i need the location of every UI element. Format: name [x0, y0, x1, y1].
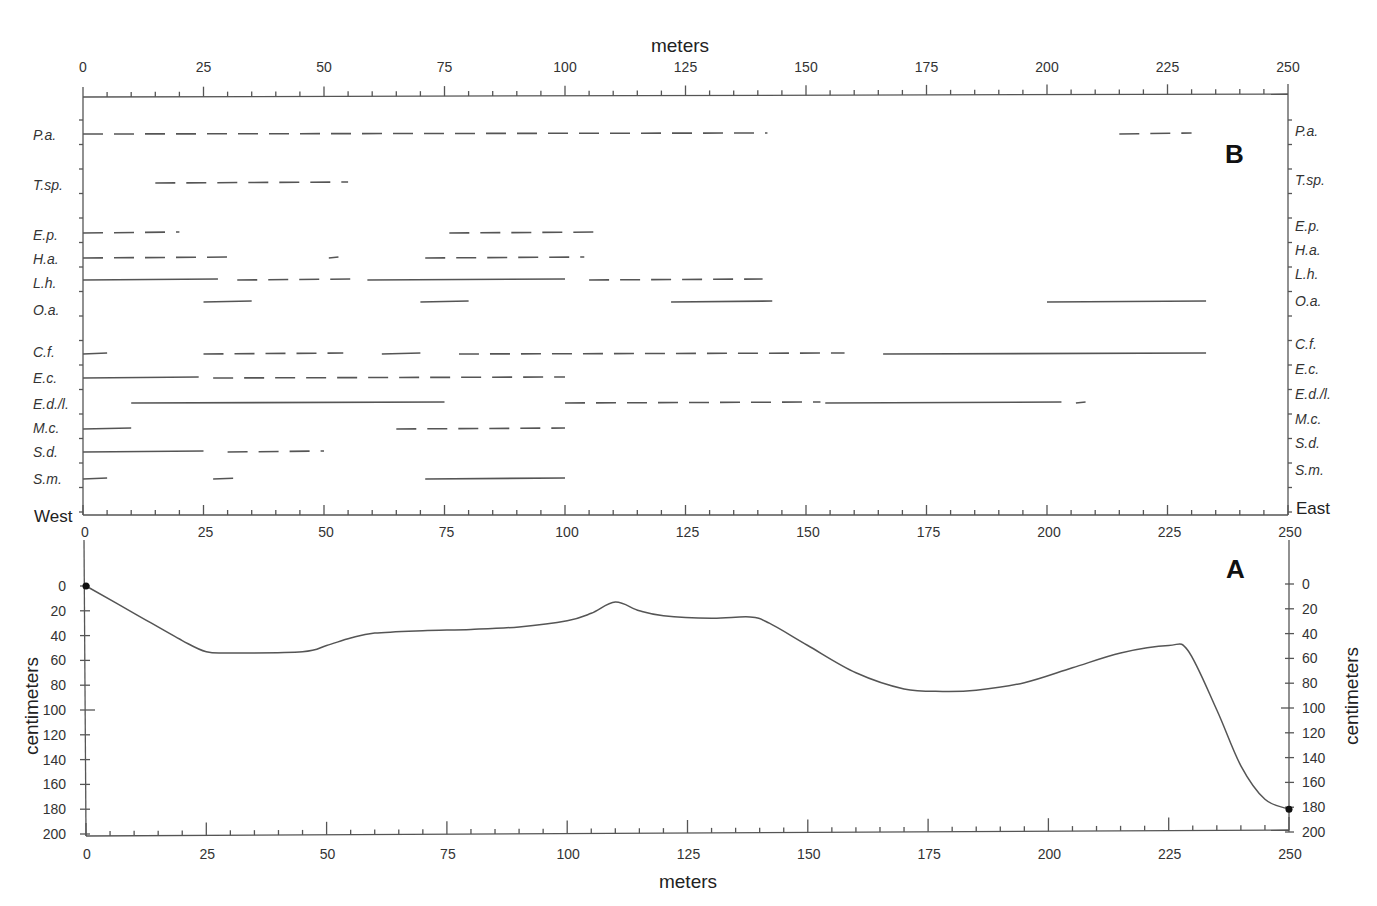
species-label-right: E.p.: [1295, 218, 1320, 234]
species-range-segment: [382, 353, 421, 354]
a-x-tick-label: 125: [677, 846, 701, 862]
species-label-right: T.sp.: [1295, 172, 1325, 188]
species-label-left: S.d.: [33, 444, 58, 460]
chart-figure: 0025255050757510010012512515015017517520…: [0, 0, 1377, 906]
east-label: East: [1296, 499, 1330, 518]
a-x-tick-label: 150: [797, 846, 821, 862]
top-x-tick-label: 200: [1035, 59, 1059, 75]
species-range-segment: [83, 232, 179, 233]
species-range-segment: [396, 428, 565, 429]
panel-b-label: B: [1225, 139, 1244, 169]
species-range-segment: [83, 428, 131, 429]
b-bottom-x-tick-label: 75: [439, 524, 455, 540]
species-range-segment: [671, 301, 772, 302]
right-y-tick-label: 120: [1302, 725, 1326, 741]
right-y-tick-label: 200: [1302, 824, 1326, 840]
species-label-left: S.m.: [33, 471, 62, 487]
species-range-segment: [367, 279, 565, 280]
species-row: C.f.C.f.: [33, 336, 1317, 360]
species-row: H.a.H.a.: [33, 242, 1321, 267]
left-y-tick-label: 0: [58, 578, 66, 594]
left-y-tick-label: 40: [50, 628, 66, 644]
species-range-segment: [83, 377, 199, 378]
panel-a-label: A: [1226, 554, 1245, 584]
top-x-tick-label: 125: [674, 59, 698, 75]
species-range-segment: [131, 402, 444, 403]
species-row: M.c.M.c.: [33, 411, 1321, 436]
left-y-axis-title: centimeters: [21, 657, 42, 755]
species-range-segment: [83, 257, 237, 258]
west-label: West: [34, 507, 73, 526]
right-y-tick-label: 0: [1302, 576, 1310, 592]
species-range-segment: [883, 353, 1206, 354]
a-x-tick-label: 25: [200, 846, 216, 862]
species-range-segment: [83, 133, 767, 134]
b-bottom-x-tick-label: 200: [1037, 524, 1061, 540]
left-y-tick-label: 100: [43, 702, 67, 718]
left-y-tick-label: 160: [43, 776, 67, 792]
a-x-tick-label: 50: [320, 846, 336, 862]
species-range-segment: [213, 478, 242, 479]
right-y-tick-label: 160: [1302, 774, 1326, 790]
species-label-left: E.p.: [33, 227, 58, 243]
species-label-right: S.m.: [1295, 462, 1324, 478]
bottom-x-axis-title: meters: [659, 871, 717, 892]
right-y-tick-label: 140: [1302, 750, 1326, 766]
b-bottom-x-tick-label: 25: [198, 524, 214, 540]
top-x-tick-label: 100: [553, 59, 577, 75]
species-label-left: C.f.: [33, 344, 55, 360]
left-y-tick-label: 20: [50, 603, 66, 619]
species-row: S.d.S.d.: [33, 435, 1320, 460]
species-range-segment: [449, 232, 603, 233]
species-range-segment: [83, 353, 107, 354]
b-bottom-x-tick-label: 150: [796, 524, 820, 540]
species-range-segment: [228, 451, 324, 452]
species-label-right: S.d.: [1295, 435, 1320, 451]
species-range-segment: [1047, 301, 1206, 302]
top-x-tick-label: 225: [1156, 59, 1180, 75]
species-label-left: T.sp.: [33, 177, 63, 193]
species-range-segment: [204, 301, 252, 302]
a-x-tick-label: 200: [1038, 846, 1062, 862]
species-range-segment: [425, 478, 565, 479]
species-range-segment: [83, 279, 218, 280]
species-label-left: O.a.: [33, 302, 59, 318]
species-range-segment: [420, 301, 468, 302]
species-range-segment: [237, 279, 353, 280]
panel-b-species-distribution: 0025255050757510010012512515015017517520…: [33, 59, 1331, 540]
species-label-left: M.c.: [33, 420, 59, 436]
left-y-tick-label: 200: [43, 826, 67, 842]
left-y-tick-label: 140: [43, 752, 67, 768]
left-y-tick-label: 180: [43, 801, 67, 817]
end-point-marker: [1286, 806, 1293, 813]
a-x-tick-label: 250: [1278, 846, 1302, 862]
species-label-left: H.a.: [33, 251, 59, 267]
species-range-segment: [83, 478, 107, 479]
top-x-tick-label: 25: [196, 59, 212, 75]
species-range-segment: [825, 402, 1061, 403]
b-bottom-x-tick-label: 175: [917, 524, 941, 540]
right-y-tick-label: 20: [1302, 601, 1318, 617]
top-x-tick-label: 175: [915, 59, 939, 75]
species-range-segment: [425, 257, 584, 258]
species-label-right: E.d./l.: [1295, 386, 1331, 402]
b-bottom-x-tick-label: 0: [81, 524, 89, 540]
species-range-segment: [155, 182, 348, 183]
left-y-tick-label: 60: [50, 652, 66, 668]
species-row: E.c.E.c.: [33, 361, 1319, 386]
top-x-tick-label: 150: [794, 59, 818, 75]
top-x-tick-label: 50: [316, 59, 332, 75]
a-x-tick-label: 225: [1158, 846, 1182, 862]
b-bottom-x-tick-label: 225: [1158, 524, 1182, 540]
species-range-segment: [83, 451, 204, 452]
species-label-left: E.d./l.: [33, 396, 69, 412]
panel-a-elevation-profile: 0255075100125150175200225250002020404060…: [43, 540, 1326, 862]
species-range-segment: [459, 353, 845, 354]
species-row: L.h.L.h.: [33, 266, 1318, 291]
species-label-right: M.c.: [1295, 411, 1321, 427]
species-label-right: O.a.: [1295, 293, 1321, 309]
b-bottom-x-tick-label: 125: [676, 524, 700, 540]
species-row: S.m.S.m.: [33, 462, 1324, 487]
b-bottom-x-tick-label: 100: [555, 524, 579, 540]
right-y-tick-label: 80: [1302, 675, 1318, 691]
